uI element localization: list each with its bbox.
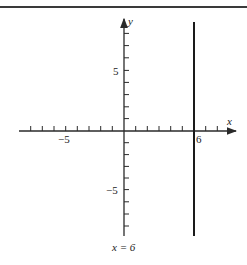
x-axis-label: x: [226, 115, 232, 127]
x-tick-label-neg5: −5: [58, 133, 70, 145]
y-axis-label: y: [127, 15, 133, 27]
x-tick-label-6: 6: [196, 133, 202, 145]
y-ticks: [124, 33, 129, 226]
equation-label: x = 6: [111, 241, 136, 253]
graph: y x −5 6 5 −5 x = 6: [0, 0, 247, 265]
y-tick-label-neg5: −5: [106, 184, 118, 196]
y-tick-label-5: 5: [113, 65, 119, 77]
